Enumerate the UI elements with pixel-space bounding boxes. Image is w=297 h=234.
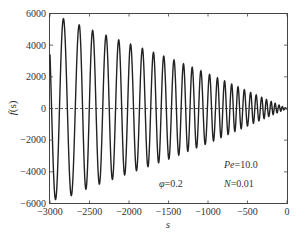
x-tick-label: −2000 — [116, 206, 142, 217]
annotation-n: N=0.01 — [223, 178, 254, 189]
x-tick-label: −1000 — [195, 206, 221, 217]
svg-text:f(s): f(s) — [6, 100, 19, 115]
x-axis-label: s — [166, 218, 170, 230]
y-tick-label: −2000 — [20, 134, 46, 145]
x-tick-label: −500 — [237, 206, 258, 217]
x-tick-label: −3000 — [37, 206, 63, 217]
y-tick-label: 0 — [41, 103, 46, 114]
annotation-pe: Pe=10.0 — [223, 159, 258, 170]
y-tick-label: 2000 — [26, 71, 46, 82]
x-tick-label: −1500 — [156, 206, 182, 217]
annotation-phi: φ=0.2 — [159, 178, 183, 189]
x-tick-label: −2500 — [77, 206, 103, 217]
signal-curve — [50, 19, 287, 200]
y-tick-label: 6000 — [26, 8, 46, 19]
y-tick-label: 4000 — [26, 40, 46, 51]
chart: 6000 4000 2000 0 −2000 −4000 −6000 −3000… — [0, 0, 297, 234]
y-axis-label: f(s) — [6, 100, 19, 115]
y-tick-label: −4000 — [20, 166, 46, 177]
x-tick-label: 0 — [285, 206, 290, 217]
